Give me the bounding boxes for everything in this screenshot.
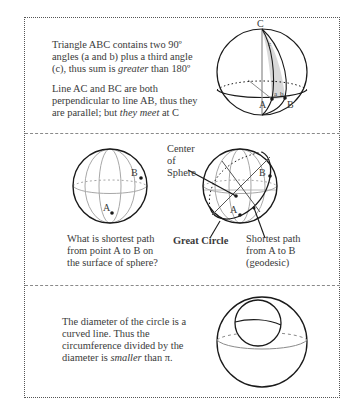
label-angle-b: b [280,89,284,101]
label-point-a: A [230,204,237,216]
section-3-line-2: curved line. Thus the [62,328,150,340]
sphere-great-circle-figure [188,149,277,238]
label-point-b: B [287,99,294,111]
label-angle-a: a [274,89,277,101]
section-3-line-3: circumference divided by the [62,340,183,352]
label-point-b: B [259,167,266,179]
label-point-c: C [257,18,264,30]
label-point-a: A [259,99,266,111]
figures-layer [0,0,358,414]
label-angle-c: c [268,39,271,51]
section-3-line-1: The diameter of the circle is a [62,316,186,328]
sphere-circle-figure [217,297,307,387]
label-point-a: A [103,202,110,214]
section-3-line-4: diameter is smaller than π. [62,352,173,364]
emphasis-smaller: smaller [110,352,141,363]
label-point-b: B [131,167,138,179]
great-circle-label: Great Circle [173,235,228,247]
